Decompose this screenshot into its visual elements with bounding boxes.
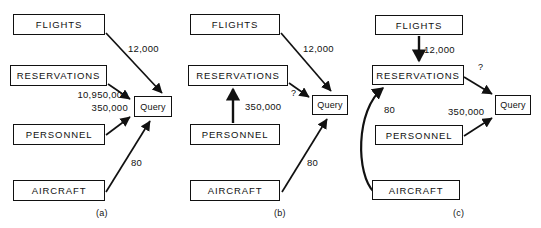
c-edge-label-aircraft: 80 xyxy=(384,104,395,115)
b-node-reservations[interactable]: RESERVATIONS xyxy=(188,65,288,86)
c-node-aircraft[interactable]: AIRCRAFT xyxy=(372,180,460,200)
c-edge-label-reservations-question: ? xyxy=(478,62,483,72)
figure-canvas: FLIGHTS RESERVATIONS PERSONNEL AIRCRAFT … xyxy=(0,0,541,228)
a-node-aircraft[interactable]: AIRCRAFT xyxy=(13,180,105,201)
a-edge-label-personnel: 350,000 xyxy=(33,102,128,113)
edge-c-reservations-to-query xyxy=(464,77,492,94)
edge-c-personnel-to-query xyxy=(464,118,492,136)
a-node-personnel[interactable]: PERSONNEL xyxy=(13,124,105,145)
edge-a-aircraft-to-query xyxy=(106,121,150,192)
c-node-reservations[interactable]: RESERVATIONS xyxy=(372,65,464,85)
b-edge-label-personnel: 350,000 xyxy=(245,101,281,112)
b-node-aircraft[interactable]: AIRCRAFT xyxy=(190,180,280,201)
b-node-personnel[interactable]: PERSONNEL xyxy=(190,124,280,145)
c-node-personnel[interactable]: PERSONNEL xyxy=(375,125,463,145)
c-edge-label-personnel: 350,000 xyxy=(448,106,484,117)
c-edge-label-flights: 12,000 xyxy=(424,44,455,55)
a-node-flights[interactable]: FLIGHTS xyxy=(13,14,105,35)
a-node-reservations[interactable]: RESERVATIONS xyxy=(10,65,107,86)
panel-caption-a: (a) xyxy=(96,208,108,218)
edge-b-flights-to-query xyxy=(281,33,331,91)
panel-caption-b: (b) xyxy=(274,208,286,218)
panel-caption-c: (c) xyxy=(453,208,464,218)
a-edge-label-reservations: 10,950,000 xyxy=(33,89,128,100)
b-node-flights[interactable]: FLIGHTS xyxy=(190,14,280,35)
c-node-flights[interactable]: FLIGHTS xyxy=(375,15,463,35)
a-edge-label-aircraft: 80 xyxy=(131,157,142,168)
edge-a-personnel-to-query xyxy=(106,117,130,135)
b-edge-label-aircraft: 80 xyxy=(307,157,318,168)
b-node-query[interactable]: Query xyxy=(312,95,348,115)
a-edge-label-flights: 12,000 xyxy=(128,43,159,54)
edge-b-aircraft-to-query xyxy=(282,119,327,192)
a-node-query[interactable]: Query xyxy=(134,96,172,117)
edge-a-flights-to-query xyxy=(106,33,162,93)
b-edge-label-flights: 12,000 xyxy=(303,43,334,54)
c-node-query[interactable]: Query xyxy=(495,95,531,115)
b-edge-label-reservations-question: ? xyxy=(291,88,296,98)
